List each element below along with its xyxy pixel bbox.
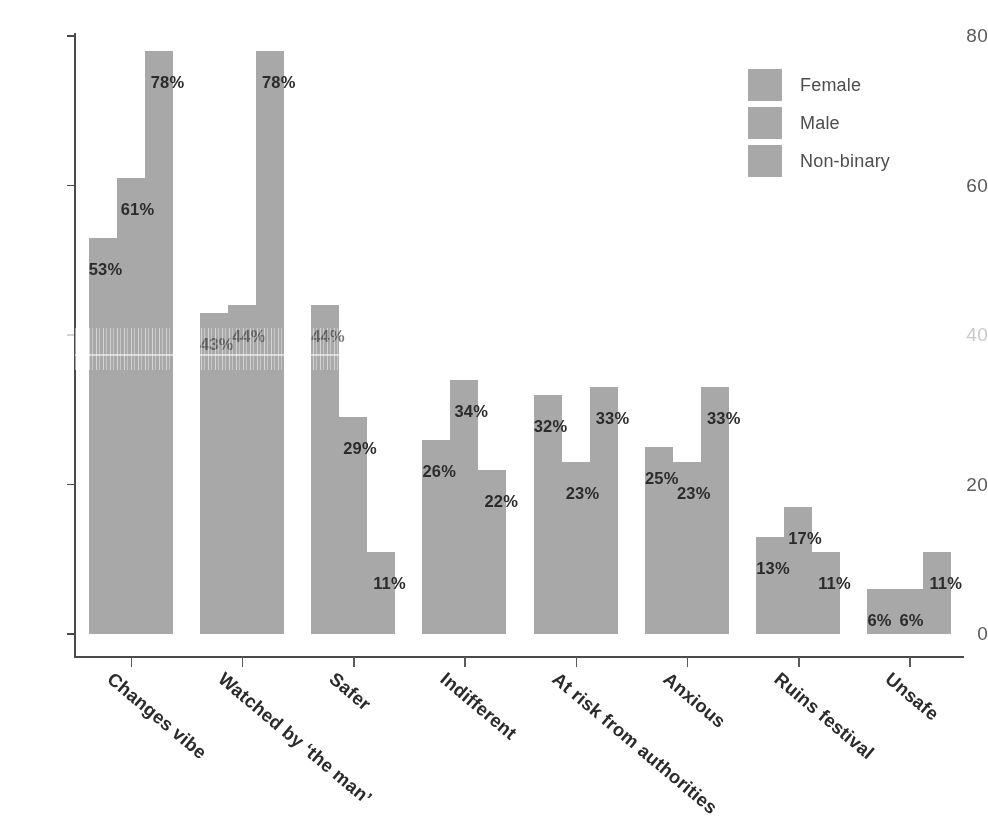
bar xyxy=(117,178,145,634)
bar xyxy=(89,238,117,634)
bar-value-label: 43% xyxy=(200,335,234,354)
bar-value-label: 33% xyxy=(596,409,630,428)
x-axis-label: Ruins festival xyxy=(770,668,878,764)
bar xyxy=(756,537,784,634)
x-axis-label: Anxious xyxy=(659,668,730,733)
legend-label: Male xyxy=(800,113,840,134)
bar-value-label: 23% xyxy=(566,484,600,503)
x-tick-mark xyxy=(353,657,354,667)
bar xyxy=(923,552,951,634)
bar-value-label: 25% xyxy=(645,469,679,488)
bar xyxy=(145,51,173,634)
y-tick-mark xyxy=(67,185,75,187)
bar-value-label: 13% xyxy=(756,559,790,578)
legend-item: Female xyxy=(748,66,890,104)
legend-label: Non-binary xyxy=(800,151,890,172)
x-tick-mark xyxy=(576,657,577,667)
bar-value-label: 33% xyxy=(707,409,741,428)
legend-item: Male xyxy=(748,104,890,142)
bar-value-label: 44% xyxy=(232,327,266,346)
bar xyxy=(228,305,256,634)
x-tick-mark xyxy=(464,657,465,667)
bar-value-label: 34% xyxy=(454,402,488,421)
bar-value-label: 11% xyxy=(929,574,962,593)
bar-value-label: 11% xyxy=(373,574,406,593)
x-tick-mark xyxy=(131,657,132,667)
bar-value-label: 6% xyxy=(867,611,891,630)
bar-group xyxy=(645,36,729,634)
bar-value-label: 17% xyxy=(788,529,822,548)
x-tick-mark xyxy=(909,657,910,667)
legend-swatch xyxy=(748,145,782,177)
x-tick-mark xyxy=(687,657,688,667)
x-axis-label: Safer xyxy=(325,668,375,715)
legend-swatch xyxy=(748,69,782,101)
bar xyxy=(200,313,228,634)
x-tick-mark xyxy=(798,657,799,667)
y-tick-mark xyxy=(67,35,75,37)
bar-group xyxy=(89,36,173,634)
y-tick-mark xyxy=(67,484,75,486)
bar-group xyxy=(422,36,506,634)
bar xyxy=(367,552,395,634)
bar xyxy=(311,305,339,634)
x-tick-mark xyxy=(242,657,243,667)
bar-value-label: 11% xyxy=(818,574,851,593)
legend-label: Female xyxy=(800,75,861,96)
bar-value-label: 44% xyxy=(311,327,345,346)
bar-value-label: 29% xyxy=(343,439,377,458)
x-axis-line xyxy=(74,656,964,658)
bar-value-label: 78% xyxy=(151,73,185,92)
bar-value-label: 26% xyxy=(422,462,456,481)
bar-group xyxy=(534,36,618,634)
y-tick-mark xyxy=(67,633,75,635)
bar-chart-figure: 806040200 53%61%78%43%44%78%44%29%11%26%… xyxy=(0,0,988,824)
bar-value-label: 32% xyxy=(534,417,568,436)
x-axis-label: Changes vibe xyxy=(102,668,210,764)
chart-legend: FemaleMaleNon-binary xyxy=(748,66,890,180)
bar-value-label: 61% xyxy=(121,200,155,219)
bar-value-label: 22% xyxy=(484,492,518,511)
y-tick-mark xyxy=(67,334,75,336)
bar-value-label: 78% xyxy=(262,73,296,92)
legend-swatch xyxy=(748,107,782,139)
legend-item: Non-binary xyxy=(748,142,890,180)
bar xyxy=(812,552,840,634)
bar-value-label: 53% xyxy=(89,260,123,279)
bar-value-label: 6% xyxy=(899,611,923,630)
x-axis-label: Indifferent xyxy=(436,668,521,744)
bar-value-label: 23% xyxy=(677,484,711,503)
x-axis-label: Unsafe xyxy=(881,668,943,725)
figure-caption xyxy=(0,800,988,824)
